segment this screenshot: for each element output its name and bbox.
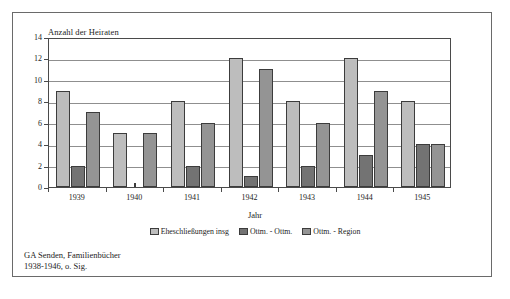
bar: [259, 69, 273, 187]
x-tick-label: 1944: [345, 193, 385, 202]
bar: [171, 101, 185, 187]
y-tick-mark: [44, 124, 48, 125]
legend-label: Ottm. - Region: [313, 227, 360, 236]
plot-area: [48, 38, 451, 188]
bar: [416, 144, 430, 187]
plot-inner: [49, 39, 450, 187]
y-tick-mark: [44, 167, 48, 168]
bar: [316, 123, 330, 187]
x-tick-mark: [106, 188, 107, 192]
legend-entry[interactable]: Ottm. - Region: [302, 227, 360, 236]
bar-group: [56, 39, 100, 187]
y-axis-title: Anzahl der Heiraten: [48, 27, 119, 37]
bar: [56, 91, 70, 187]
x-tick-label: 1942: [230, 193, 270, 202]
x-axis-title: Jahr: [0, 210, 510, 220]
y-tick-mark: [44, 38, 48, 39]
bar-group: [113, 39, 157, 187]
bar: [374, 91, 388, 187]
legend-label: Eheschließungen insg: [161, 227, 229, 236]
bar: [134, 183, 136, 187]
x-tick-mark: [163, 188, 164, 192]
y-tick-mark: [44, 81, 48, 82]
source-caption: GA Senden, Familienbücher 1938-1946, o. …: [24, 250, 121, 272]
bar: [86, 112, 100, 187]
bar: [244, 176, 258, 187]
x-tick-label: 1941: [172, 193, 212, 202]
bar-group: [229, 39, 273, 187]
bar: [113, 133, 127, 187]
legend-swatch-icon: [239, 228, 248, 235]
legend-entry[interactable]: Eheschließungen insg: [150, 227, 229, 236]
legend-swatch-icon: [302, 228, 311, 235]
y-tick-label: 8: [22, 98, 42, 106]
source-line-2: 1938-1946, o. Sig.: [24, 261, 121, 272]
chart-figure: Anzahl der Heiraten Jahr Eheschließungen…: [0, 0, 510, 299]
bar-group: [286, 39, 330, 187]
x-tick-mark: [336, 188, 337, 192]
y-tick-label: 4: [22, 141, 42, 149]
legend-swatch-icon: [150, 228, 159, 235]
bar: [143, 133, 157, 187]
bar: [201, 123, 215, 187]
bar-group: [401, 39, 445, 187]
bar: [71, 166, 85, 187]
x-tick-label: 1940: [114, 193, 154, 202]
y-tick-mark: [44, 59, 48, 60]
x-tick-mark: [393, 188, 394, 192]
x-tick-mark: [221, 188, 222, 192]
legend-label: Ottm. - Ottm.: [250, 227, 292, 236]
bar: [301, 166, 315, 187]
y-tick-mark: [44, 145, 48, 146]
legend-entry[interactable]: Ottm. - Ottm.: [239, 227, 292, 236]
y-tick-label: 14: [22, 34, 42, 42]
x-tick-label: 1939: [57, 193, 97, 202]
x-tick-label: 1945: [402, 193, 442, 202]
y-tick-label: 6: [22, 120, 42, 128]
y-tick-label: 10: [22, 77, 42, 85]
bar: [359, 155, 373, 187]
chart-legend: Eheschließungen insgOttm. - Ottm.Ottm. -…: [0, 227, 510, 236]
y-tick-label: 12: [22, 55, 42, 63]
bar: [186, 166, 200, 187]
y-tick-label: 2: [22, 163, 42, 171]
y-tick-mark: [44, 102, 48, 103]
source-line-1: GA Senden, Familienbücher: [24, 250, 121, 261]
bar-group: [171, 39, 215, 187]
bar: [286, 101, 300, 187]
bar: [401, 101, 415, 187]
y-tick-label: 0: [22, 184, 42, 192]
x-tick-label: 1943: [287, 193, 327, 202]
bar: [344, 58, 358, 187]
bar: [431, 144, 445, 187]
x-tick-mark: [48, 188, 49, 192]
x-tick-mark: [278, 188, 279, 192]
bar: [229, 58, 243, 187]
bar-group: [344, 39, 388, 187]
